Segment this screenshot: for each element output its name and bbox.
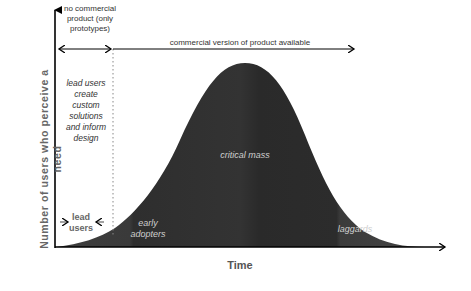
- x-axis-label: Time: [210, 259, 270, 271]
- critical-mass-label: critical mass: [205, 150, 285, 161]
- early-adopters-label: early adopters: [126, 218, 170, 240]
- no-commercial-label: no commercial product (only prototypes): [59, 4, 121, 34]
- laggards-label: laggards: [330, 224, 380, 235]
- lead-users-line1: lead: [66, 212, 96, 223]
- commercial-available-label: commercial version of product available: [150, 38, 330, 47]
- y-axis-label: Number of users who perceive a need: [38, 59, 64, 259]
- lead-users-label: lead users: [66, 212, 96, 234]
- lead-users-line2: users: [66, 223, 96, 234]
- early-adopters-line1: early: [126, 218, 170, 229]
- lead-users-note: lead users create custom solutions and i…: [62, 78, 110, 144]
- early-adopters-line2: adopters: [126, 229, 170, 240]
